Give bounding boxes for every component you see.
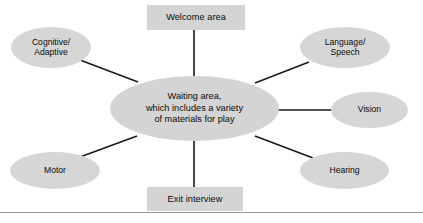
node-waiting-area-center[interactable]: Waiting area, which includes a variety o… [110,76,279,141]
node-label: Waiting area, which includes a variety o… [146,91,243,126]
node-label: Hearing [329,166,359,176]
connector-center-to-cognitive-adaptive [80,60,138,82]
node-vision[interactable]: Vision [331,92,408,128]
node-label: Welcome area [166,12,226,22]
node-language-speech[interactable]: Language/ Speech [300,27,390,68]
connector-center-to-motor [80,136,137,157]
node-motor[interactable]: Motor [10,152,100,189]
node-exit-interview[interactable]: Exit interview [147,187,243,211]
node-label: Vision [358,105,381,115]
node-cognitive-adaptive[interactable]: Cognitive/ Adaptive [11,27,91,68]
bottom-divider [0,212,423,213]
connector-center-to-hearing [255,136,313,158]
concept-map-diagram: Waiting area, which includes a variety o… [0,0,423,223]
node-label: Cognitive/ Adaptive [32,38,70,57]
node-hearing[interactable]: Hearing [300,152,389,189]
node-label: Language/ Speech [325,38,366,57]
node-welcome-area[interactable]: Welcome area [147,5,245,30]
node-label: Exit interview [168,194,223,204]
connector-center-to-language-speech [255,62,309,83]
node-label: Motor [44,166,66,176]
